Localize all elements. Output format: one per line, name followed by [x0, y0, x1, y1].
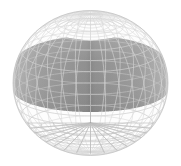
sphere-wireframe-plot: [0, 0, 181, 166]
figure-root: [0, 0, 181, 166]
